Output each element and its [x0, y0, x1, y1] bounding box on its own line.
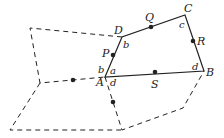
label-D: D — [113, 24, 123, 37]
point-lower-dashed — [111, 100, 116, 105]
midpoint-dots — [71, 25, 196, 105]
angle-D-b: b — [123, 39, 129, 50]
angle-A-b: b — [98, 64, 104, 75]
point-left-dashed — [71, 78, 76, 83]
label-R: R — [196, 35, 205, 48]
label-C: C — [184, 2, 193, 15]
dashed-copies — [10, 28, 204, 130]
angle-A-d: d — [110, 77, 116, 88]
angle-A-a: a — [110, 65, 116, 76]
label-S: S — [151, 78, 159, 91]
point-P — [111, 53, 116, 58]
label-A: A — [95, 76, 104, 89]
label-Q: Q — [145, 11, 154, 24]
point-S — [153, 70, 158, 75]
label-P: P — [101, 47, 110, 60]
point-R — [191, 39, 196, 44]
quadrilateral-diagram: D C B A P Q R S a b d b c d — [0, 0, 224, 138]
angle-C-c: c — [179, 19, 185, 30]
label-B: B — [205, 66, 214, 79]
point-Q — [149, 25, 154, 30]
angle-B-d: d — [192, 61, 198, 72]
